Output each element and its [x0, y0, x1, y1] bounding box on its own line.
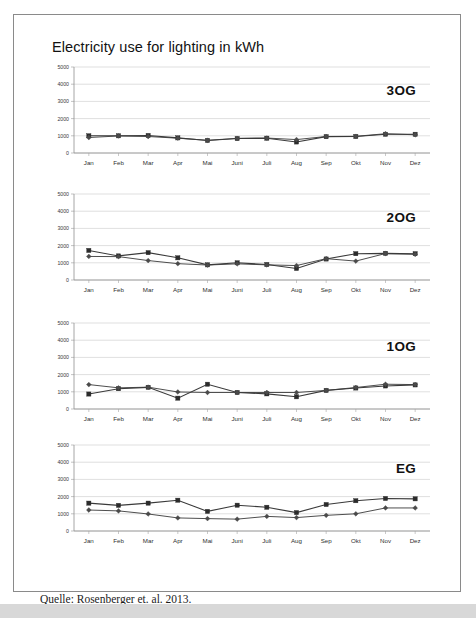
chart-svg-2og: 010002000300040005000JanFebMarAprMaiJuni… — [36, 188, 440, 302]
y-axis-tick-label: 5000 — [57, 191, 69, 197]
y-axis-tick-label: 3000 — [57, 354, 69, 360]
data-point-marker — [413, 506, 418, 511]
data-point-marker — [235, 503, 239, 507]
y-axis-tick-label: 3000 — [57, 476, 69, 482]
x-axis-tick-label: Mar — [143, 415, 154, 422]
data-point-marker — [294, 510, 298, 514]
y-axis-tick-label: 4000 — [57, 208, 69, 214]
x-axis-tick-label: Feb — [113, 537, 124, 544]
x-axis-tick-label: Apr — [173, 415, 183, 422]
figure-title: Electricity use for lighting in kWh — [52, 39, 264, 55]
x-axis-tick-label: Sep — [321, 537, 333, 544]
y-axis-tick-label: 3000 — [57, 225, 69, 231]
x-axis-tick-label: Mar — [143, 286, 154, 293]
x-axis-tick-label: Aug — [291, 286, 303, 293]
y-axis-tick-label: 3000 — [57, 98, 69, 104]
data-point-marker — [383, 496, 387, 500]
data-line-series-square — [89, 498, 415, 512]
x-axis-tick-label: Dez — [410, 286, 421, 293]
data-point-marker — [294, 515, 299, 520]
chart-title-3og: 3OG — [387, 83, 416, 98]
chart-panel-1og: 010002000300040005000JanFebMarAprMaiJuni… — [36, 317, 440, 431]
x-axis-tick-label: Juni — [231, 415, 242, 422]
chart-title-1og: 1OG — [387, 339, 416, 354]
x-axis-tick-label: Sep — [321, 415, 333, 422]
y-axis-tick-label: 4000 — [57, 81, 69, 87]
x-axis-tick-label: Dez — [410, 415, 421, 422]
figure-frame: Electricity use for lighting in kWh 0100… — [13, 14, 461, 592]
x-axis-tick-label: Apr — [173, 286, 183, 293]
x-axis-tick-label: Nov — [380, 415, 392, 422]
data-point-marker — [383, 506, 388, 511]
x-axis-tick-label: Jan — [84, 159, 95, 166]
chart-panel-2og: 010002000300040005000JanFebMarAprMaiJuni… — [36, 188, 440, 302]
data-point-marker — [146, 251, 150, 255]
chart-panel-eg: 010002000300040005000JanFebMarAprMaiJuni… — [36, 439, 440, 553]
data-point-marker — [87, 392, 91, 396]
x-axis-tick-label: Okt — [351, 537, 361, 544]
y-axis-tick-label: 2000 — [57, 243, 69, 249]
x-axis-tick-label: Okt — [351, 415, 361, 422]
x-axis-tick-label: Juni — [231, 537, 242, 544]
x-axis-tick-label: Juli — [262, 286, 271, 293]
x-axis-tick-label: Aug — [291, 537, 303, 544]
y-axis-tick-label: 0 — [66, 277, 69, 283]
data-point-marker — [86, 382, 91, 387]
y-axis-tick-label: 1000 — [57, 260, 69, 266]
x-axis-tick-label: Nov — [380, 159, 392, 166]
data-point-marker — [265, 505, 269, 509]
x-axis-tick-label: Nov — [380, 537, 392, 544]
x-axis-tick-label: Mar — [143, 159, 154, 166]
y-axis-tick-label: 2000 — [57, 116, 69, 122]
chart-svg-3og: 010002000300040005000JanFebMarAprMaiJuni… — [36, 61, 440, 175]
y-axis-tick-label: 2000 — [57, 372, 69, 378]
data-point-marker — [86, 508, 91, 513]
data-point-marker — [176, 396, 180, 400]
x-axis-tick-label: Sep — [321, 286, 333, 293]
x-axis-tick-label: Jan — [84, 415, 95, 422]
data-point-marker — [235, 517, 240, 522]
x-axis-tick-label: Feb — [113, 159, 124, 166]
x-axis-tick-label: Nov — [380, 286, 392, 293]
x-axis-tick-label: Mai — [203, 537, 213, 544]
data-point-marker — [176, 498, 180, 502]
x-axis-tick-label: Jan — [84, 537, 95, 544]
data-point-marker — [264, 514, 269, 519]
x-axis-tick-label: Juli — [262, 537, 271, 544]
chart-panel-3og: 010002000300040005000JanFebMarAprMaiJuni… — [36, 61, 440, 175]
data-point-marker — [354, 499, 358, 503]
data-line-series-diamond — [89, 134, 415, 141]
x-axis-tick-label: Dez — [410, 159, 421, 166]
x-axis-tick-label: Juli — [262, 415, 271, 422]
page-bottom-strip — [0, 604, 476, 618]
data-point-marker — [175, 516, 180, 521]
data-point-marker — [294, 390, 299, 395]
data-point-marker — [146, 512, 151, 517]
data-point-marker — [324, 502, 328, 506]
x-axis-tick-label: Dez — [410, 537, 421, 544]
x-axis-tick-label: Mai — [203, 286, 213, 293]
x-axis-tick-label: Aug — [291, 159, 303, 166]
chart-title-eg: EG — [396, 461, 416, 476]
x-axis-tick-label: Sep — [321, 159, 333, 166]
chart-svg-eg: 010002000300040005000JanFebMarAprMaiJuni… — [36, 439, 440, 553]
data-point-marker — [116, 508, 121, 513]
y-axis-tick-label: 1000 — [57, 511, 69, 517]
data-point-marker — [294, 395, 298, 399]
y-axis-tick-label: 4000 — [57, 337, 69, 343]
data-point-marker — [205, 382, 209, 386]
x-axis-tick-label: Aug — [291, 415, 303, 422]
data-point-marker — [146, 501, 150, 505]
data-point-marker — [146, 258, 151, 263]
y-axis-tick-label: 5000 — [57, 320, 69, 326]
y-axis-tick-label: 0 — [66, 406, 69, 412]
x-axis-tick-label: Feb — [113, 286, 124, 293]
data-point-marker — [205, 390, 210, 395]
x-axis-tick-label: Juli — [262, 159, 271, 166]
data-point-marker — [354, 252, 358, 256]
x-axis-tick-label: Okt — [351, 286, 361, 293]
y-axis-tick-label: 1000 — [57, 133, 69, 139]
x-axis-tick-label: Mar — [143, 537, 154, 544]
data-point-marker — [87, 501, 91, 505]
x-axis-tick-label: Jan — [84, 286, 95, 293]
